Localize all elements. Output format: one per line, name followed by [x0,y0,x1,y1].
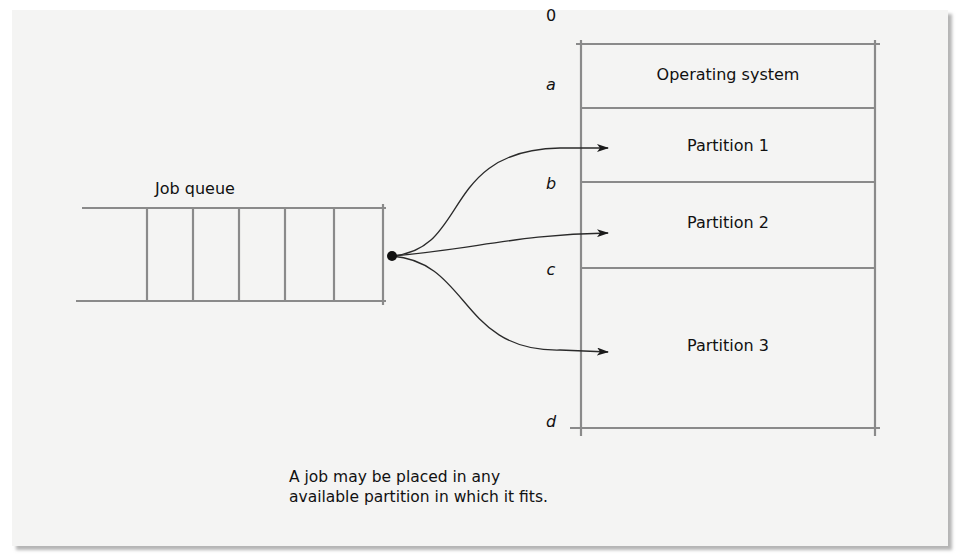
region-partition-1: Partition 1 [581,137,875,155]
address-label-b: b [541,175,561,193]
arrow-to-partition-3 [392,256,608,352]
region-partition-3: Partition 3 [581,337,875,355]
address-label-d: d [541,413,561,431]
region-operating-system: Operating system [581,66,875,84]
address-label-a: a [541,76,561,94]
job-queue [76,204,386,305]
job-queue-label: Job queue [155,180,235,198]
address-label-0: 0 [541,7,561,25]
region-partition-2: Partition 2 [581,214,875,232]
job-queue-head-dot [387,251,397,261]
address-label-c: c [541,261,561,279]
memory-block [570,40,880,436]
diagram-caption: A job may be placed in any available par… [289,467,548,507]
arrow-to-partition-1 [392,148,608,256]
caption-line-1: A job may be placed in any [289,467,548,487]
caption-line-2: available partition in which it fits. [289,487,548,507]
